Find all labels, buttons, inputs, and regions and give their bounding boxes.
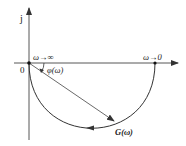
omega-zero-label: ω→0 (143, 52, 163, 62)
origin-point (27, 61, 31, 65)
transfer-label: G(ω) (115, 127, 133, 137)
phase-label: φ(ω) (47, 65, 64, 75)
origin-label: 0 (20, 65, 25, 75)
nyquist-diagram: j 0 ω→∞ ω→0 φ(ω) G(ω) (0, 0, 186, 146)
curve-direction-arrow (86, 126, 94, 131)
omega-inf-label: ω→∞ (33, 52, 54, 62)
imag-axis-label: j (19, 13, 23, 24)
diagram-svg: j 0 ω→∞ ω→0 φ(ω) G(ω) (0, 0, 186, 146)
